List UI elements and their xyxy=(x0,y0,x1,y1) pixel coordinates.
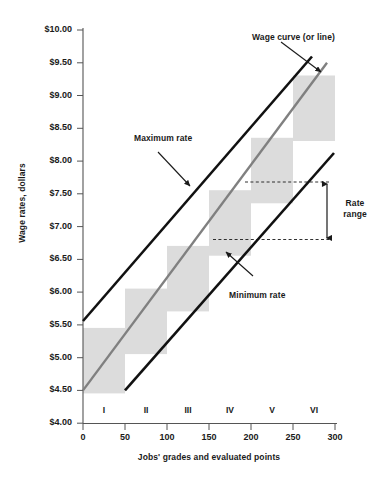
grade-band-box-6 xyxy=(293,76,335,142)
wage-structure-chart: $10.00 $9.50 $9.00 $8.50 $8.00 $7.50 $7.… xyxy=(0,0,375,489)
x-tick-label: 50 xyxy=(105,432,145,442)
y-tick-label: $6.00 xyxy=(20,286,72,296)
x-tick-label: 100 xyxy=(147,432,187,442)
x-axis-title: Jobs' grades and evaluated points xyxy=(83,452,335,462)
x-tick-label: 150 xyxy=(189,432,229,442)
maximum-rate-label: Maximum rate xyxy=(134,133,192,143)
rate-range-label: Rate range xyxy=(338,198,372,220)
grade-band-box-2 xyxy=(125,289,167,355)
minimum-rate-label: Minimum rate xyxy=(229,290,285,300)
maximum-rate-arrow xyxy=(158,152,190,186)
grade-band-box-5 xyxy=(251,138,293,204)
grade-band-label-2: II xyxy=(125,405,167,415)
y-axis-title: Wage rates, dollars xyxy=(17,133,27,273)
y-tick-label: $10.00 xyxy=(20,24,72,34)
y-axis-ticks xyxy=(77,30,83,423)
chart-canvas xyxy=(0,0,375,489)
grade-band-label-1: I xyxy=(83,405,125,415)
grade-band-label-3: III xyxy=(167,405,209,415)
y-tick-label: $4.00 xyxy=(20,417,72,427)
grade-band-label-6: VI xyxy=(293,405,335,415)
x-axis-ticks xyxy=(83,424,335,431)
grade-band-label-4: IV xyxy=(209,405,251,415)
grade-band-box-4 xyxy=(209,190,251,256)
y-tick-label: $8.00 xyxy=(20,155,72,165)
y-tick-label: $8.50 xyxy=(20,122,72,132)
y-tick-label: $7.00 xyxy=(20,221,72,231)
x-tick-label: 300 xyxy=(315,432,355,442)
grade-band-boxes xyxy=(83,76,335,394)
x-tick-label: 250 xyxy=(273,432,313,442)
wage-curve-line xyxy=(83,63,327,391)
y-tick-label: $5.50 xyxy=(20,319,72,329)
y-tick-label: $7.50 xyxy=(20,188,72,198)
x-tick-label: 200 xyxy=(231,432,271,442)
y-tick-label: $4.50 xyxy=(20,384,72,394)
y-tick-label: $5.00 xyxy=(20,352,72,362)
x-tick-label: 0 xyxy=(63,432,103,442)
y-tick-label: $9.00 xyxy=(20,90,72,100)
y-tick-label: $6.50 xyxy=(20,253,72,263)
wage-curve-label: Wage curve (or line) xyxy=(252,32,335,42)
minimum-rate-line xyxy=(125,153,334,390)
y-tick-label: $9.50 xyxy=(20,57,72,67)
grade-band-label-5: V xyxy=(251,405,293,415)
